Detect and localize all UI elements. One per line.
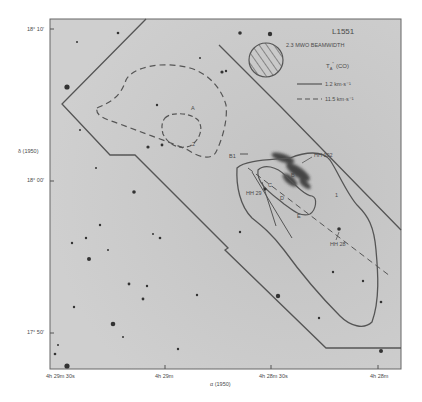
y-axis-label: δ (1950) — [18, 148, 39, 154]
object-label-b1: B1 — [229, 153, 236, 159]
object-label-hh102: HH 102 — [314, 152, 333, 158]
object-label-hh29: HH 29 — [246, 190, 262, 196]
hh29-marker — [263, 187, 266, 190]
beam-label: 2.3 MWO BEAMWIDTH — [286, 42, 344, 48]
x-tick-4-29: 4h 29m — [155, 373, 174, 379]
y-tick-18-00: 18° 00′ — [27, 177, 44, 183]
contour-letter-d: D — [280, 195, 284, 201]
contour-letter-1: 1 — [335, 192, 338, 198]
contour-letter-a: A — [191, 105, 195, 111]
contour-letter-2: 2 — [192, 141, 195, 147]
finding-chart: L1551 2.3 MWO BEAMWIDTH TA*(CO) 1.2 km·s… — [0, 0, 422, 402]
contour-letter-e: E — [297, 213, 301, 219]
x-tick-4-29-30: 4h 29m 30s — [46, 373, 75, 379]
object-label-hh28: HH 28 — [330, 241, 346, 247]
star-near-beam — [268, 32, 272, 36]
contour-letter-b: B — [291, 172, 295, 178]
y-tick-17-50: 17° 50′ — [27, 329, 44, 335]
contour-letter-c: C — [268, 182, 272, 188]
x-tick-4-28: 4h 28m — [370, 373, 389, 379]
x-tick-4-28-30: 4h 28m 30s — [259, 373, 288, 379]
figure-title: L1551 — [332, 27, 355, 36]
beam-circle — [249, 43, 283, 77]
y-tick-18-10: 18° 10′ — [27, 26, 44, 32]
hh28-marker — [337, 227, 341, 231]
legend-solid-label: 1.2 km·s⁻¹ — [325, 81, 351, 87]
x-axis-label: α (1950) — [210, 381, 231, 387]
legend-dashed-label: 11.5 km·s⁻¹ — [325, 96, 354, 102]
